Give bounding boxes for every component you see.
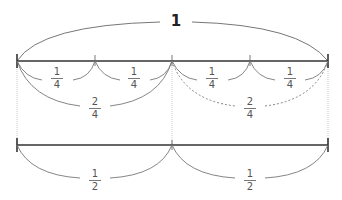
numerator: 2 [87, 97, 103, 107]
fraction-label-quarter-3: 1 4 [204, 67, 220, 90]
denominator: 4 [126, 80, 142, 90]
whole-label: 1 [171, 12, 181, 30]
numerator: 1 [87, 169, 103, 179]
fraction-label-quarter-4: 1 4 [282, 67, 298, 90]
fraction-label-bottom-half-1: 1 2 [87, 169, 103, 192]
whole-arc-right [192, 22, 328, 61]
denominator: 4 [282, 80, 298, 90]
whole-arc-left [17, 22, 160, 61]
fraction-label-quarter-1: 1 4 [49, 67, 65, 90]
denominator: 4 [204, 80, 220, 90]
numerator: 1 [242, 169, 258, 179]
numerator: 1 [49, 67, 65, 77]
fraction-label-bottom-half-2: 1 2 [242, 169, 258, 192]
denominator: 4 [242, 110, 258, 120]
denominator: 2 [242, 182, 258, 192]
denominator: 2 [87, 182, 103, 192]
numerator: 2 [242, 97, 258, 107]
denominator: 4 [87, 110, 103, 120]
numerator: 1 [126, 67, 142, 77]
fraction-label-quarter-2: 1 4 [126, 67, 142, 90]
fraction-label-half-dashed: 2 4 [242, 97, 258, 120]
numerator: 1 [282, 67, 298, 77]
fraction-label-half-solid: 2 4 [87, 97, 103, 120]
numerator: 1 [204, 67, 220, 77]
denominator: 4 [49, 80, 65, 90]
fraction-number-line-diagram [0, 0, 342, 200]
